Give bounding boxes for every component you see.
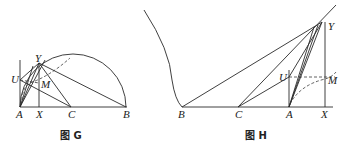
- label-y: Y: [35, 52, 43, 64]
- label-b: B: [178, 108, 185, 120]
- large-arc: [144, 10, 182, 107]
- label-b: B: [123, 108, 130, 120]
- segment-by: [182, 22, 322, 107]
- label-y: Y: [328, 20, 336, 32]
- label-x: X: [35, 108, 44, 120]
- segment-cy: [238, 5, 336, 107]
- label-u: U: [279, 71, 288, 83]
- label-c: C: [235, 108, 243, 120]
- caption-g: 图 G: [60, 130, 82, 141]
- segment-a-aux1: [289, 25, 318, 107]
- segment-yb: [39, 63, 126, 107]
- label-m: M: [327, 74, 338, 86]
- label-a: A: [15, 108, 23, 120]
- geometry-diagram: Y U M A X C B 图 G Y U M B: [0, 0, 344, 147]
- label-x: X: [320, 108, 329, 120]
- figure-h: Y U M B C A X 图 H: [144, 5, 338, 141]
- label-m: M: [40, 78, 51, 90]
- segment-uy: [289, 22, 322, 77]
- label-a: A: [285, 108, 293, 120]
- figure-g: Y U M A X C B 图 G: [11, 52, 130, 141]
- label-u: U: [11, 73, 20, 85]
- segment-a-aux2: [289, 27, 314, 107]
- label-c: C: [68, 108, 76, 120]
- caption-h: 图 H: [245, 130, 267, 141]
